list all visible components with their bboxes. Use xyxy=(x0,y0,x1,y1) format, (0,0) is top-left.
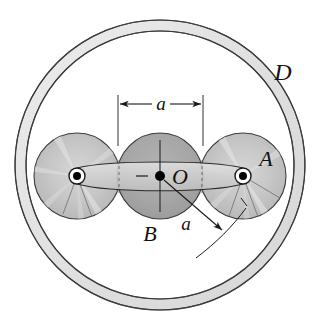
label-dimension-a: a xyxy=(156,93,166,114)
label-roller-A: A xyxy=(257,146,273,171)
pin-right-dot xyxy=(239,172,247,180)
center-point-O xyxy=(155,171,165,181)
label-center-O: O xyxy=(172,164,188,189)
label-radius-a: a xyxy=(181,213,191,234)
figure-canvas: a a D A B O xyxy=(0,0,321,335)
label-ring-D: D xyxy=(273,59,291,85)
mechanism-diagram: a a D A B O xyxy=(0,0,321,335)
pin-left-dot xyxy=(73,172,81,180)
label-disk-B: B xyxy=(143,221,156,246)
pin-left xyxy=(69,168,85,184)
pin-right xyxy=(235,168,251,184)
